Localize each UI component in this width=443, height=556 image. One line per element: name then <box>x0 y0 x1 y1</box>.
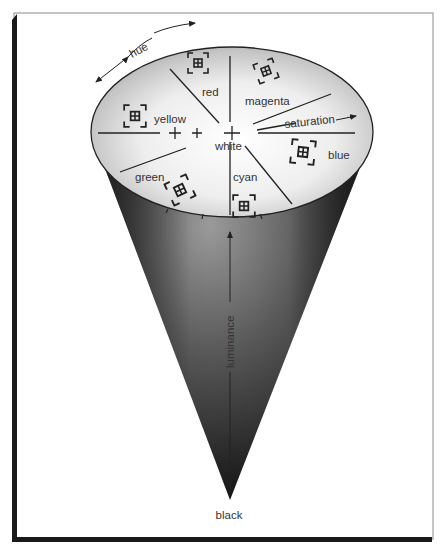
white-label: white <box>214 140 242 152</box>
black-label: black <box>216 509 243 521</box>
hue-red: red <box>202 86 219 98</box>
hue-green: green <box>135 171 164 183</box>
luminance-label: luminance <box>224 316 236 368</box>
hsl-cone-diagram: luminance black red magen <box>0 0 443 556</box>
hue-yellow: yellow <box>154 113 187 125</box>
cone-top <box>91 47 373 219</box>
hue-magenta: magenta <box>245 95 290 107</box>
hue-blue: blue <box>328 149 350 161</box>
hue-cyan: cyan <box>233 171 257 183</box>
